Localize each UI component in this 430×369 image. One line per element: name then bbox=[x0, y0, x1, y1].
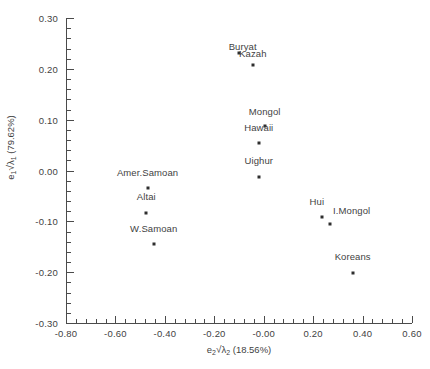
y-tick-label: 0.20 bbox=[39, 63, 58, 74]
x-tick-minor bbox=[224, 319, 225, 323]
x-tick-minor bbox=[175, 319, 176, 323]
data-point[interactable] bbox=[145, 211, 148, 214]
y-tick-minor bbox=[67, 150, 71, 151]
scatter-plot-figure: BuryatKazahMongolHawaiiUighurAmer.Samoan… bbox=[0, 0, 430, 369]
y-tick-minor bbox=[67, 293, 71, 294]
x-tick-minor bbox=[323, 319, 324, 323]
x-tick-minor bbox=[185, 319, 186, 323]
x-axis-title: e2√λ2 (18.56%) bbox=[66, 344, 412, 355]
y-tick-minor bbox=[67, 160, 71, 161]
y-tick-minor bbox=[67, 303, 71, 304]
y-tick-minor bbox=[67, 282, 71, 283]
x-tick-minor bbox=[135, 319, 136, 323]
y-tick-major bbox=[67, 69, 74, 70]
y-tick-major bbox=[67, 120, 74, 121]
x-tick-minor bbox=[372, 319, 373, 323]
x-tick-major bbox=[165, 316, 166, 323]
data-point-label: Mongol bbox=[249, 105, 281, 116]
x-tick-major bbox=[313, 316, 314, 323]
y-tick-major bbox=[67, 18, 74, 19]
x-tick-minor bbox=[293, 319, 294, 323]
x-tick-minor bbox=[204, 319, 205, 323]
x-tick-major bbox=[363, 316, 364, 323]
x-tick-minor bbox=[106, 319, 107, 323]
data-point-label: Koreans bbox=[335, 251, 371, 262]
y-tick-minor bbox=[67, 211, 71, 212]
data-point[interactable] bbox=[257, 141, 260, 144]
plot-area: BuryatKazahMongolHawaiiUighurAmer.Samoan… bbox=[66, 18, 412, 323]
data-point-label: Amer.Samoan bbox=[117, 167, 178, 178]
y-tick-label: 0.30 bbox=[39, 13, 58, 24]
x-tick-minor bbox=[145, 319, 146, 323]
y-tick-minor bbox=[67, 28, 71, 29]
y-axis-title: e1√λ1 (79.62%) bbox=[5, 78, 16, 218]
y-tick-minor bbox=[67, 242, 71, 243]
data-point[interactable] bbox=[351, 271, 354, 274]
x-tick-major bbox=[264, 316, 265, 323]
y-tick-minor bbox=[67, 201, 71, 202]
data-point-label: Kazah bbox=[239, 48, 266, 59]
x-tick-label: -0.80 bbox=[55, 328, 78, 339]
x-tick-label: 0.20 bbox=[303, 328, 322, 339]
y-tick-minor bbox=[67, 130, 71, 131]
y-tick-minor bbox=[67, 252, 71, 253]
y-tick-minor bbox=[67, 110, 71, 111]
y-tick-minor bbox=[67, 181, 71, 182]
y-tick-minor bbox=[67, 38, 71, 39]
x-tick-minor bbox=[86, 319, 87, 323]
x-tick-minor bbox=[353, 319, 354, 323]
x-tick-minor bbox=[382, 319, 383, 323]
x-tick-label: -0.20 bbox=[203, 328, 226, 339]
y-tick-minor bbox=[67, 89, 71, 90]
x-tick-label: 0.60 bbox=[402, 328, 421, 339]
data-point[interactable] bbox=[257, 175, 260, 178]
x-tick-major bbox=[66, 316, 67, 323]
x-tick-minor bbox=[303, 319, 304, 323]
y-tick-major bbox=[67, 171, 74, 172]
x-tick-minor bbox=[155, 319, 156, 323]
data-point[interactable] bbox=[146, 187, 149, 190]
y-tick-minor bbox=[67, 59, 71, 60]
y-tick-label: -0.30 bbox=[35, 318, 58, 329]
x-tick-minor bbox=[402, 319, 403, 323]
y-tick-label: -0.10 bbox=[35, 216, 58, 227]
x-tick-minor bbox=[96, 319, 97, 323]
x-tick-minor bbox=[195, 319, 196, 323]
data-point-label: Hawaii bbox=[244, 122, 273, 133]
x-tick-minor bbox=[76, 319, 77, 323]
y-tick-label: 0.10 bbox=[39, 114, 58, 125]
data-point-label: Hui bbox=[310, 196, 325, 207]
x-tick-label: -0.00 bbox=[252, 328, 275, 339]
y-tick-minor bbox=[67, 79, 71, 80]
x-tick-minor bbox=[244, 319, 245, 323]
x-tick-minor bbox=[333, 319, 334, 323]
x-tick-minor bbox=[283, 319, 284, 323]
data-point[interactable] bbox=[251, 64, 254, 67]
data-point-label: I.Mongol bbox=[333, 205, 370, 216]
data-point[interactable] bbox=[320, 216, 323, 219]
data-point[interactable] bbox=[152, 243, 155, 246]
x-axis-tick-labels: -0.80-0.60-0.40-0.20-0.000.200.400.60 bbox=[66, 328, 412, 344]
x-tick-label: -0.60 bbox=[104, 328, 127, 339]
y-tick-minor bbox=[67, 191, 71, 192]
y-tick-minor bbox=[67, 313, 71, 314]
y-tick-major bbox=[67, 272, 74, 273]
x-tick-major bbox=[115, 316, 116, 323]
y-tick-minor bbox=[67, 140, 71, 141]
x-tick-major bbox=[412, 316, 413, 323]
y-tick-minor bbox=[67, 49, 71, 50]
data-point[interactable] bbox=[328, 223, 331, 226]
x-tick-minor bbox=[125, 319, 126, 323]
data-point-label: Altai bbox=[137, 191, 156, 202]
x-tick-label: 0.40 bbox=[353, 328, 372, 339]
x-tick-label: -0.40 bbox=[154, 328, 177, 339]
y-tick-minor bbox=[67, 262, 71, 263]
y-tick-major bbox=[67, 221, 74, 222]
data-point-label: Uighur bbox=[244, 155, 273, 166]
y-tick-label: -0.20 bbox=[35, 267, 58, 278]
x-tick-minor bbox=[343, 319, 344, 323]
x-tick-minor bbox=[392, 319, 393, 323]
y-tick-major bbox=[67, 323, 74, 324]
x-tick-minor bbox=[254, 319, 255, 323]
y-tick-minor bbox=[67, 99, 71, 100]
